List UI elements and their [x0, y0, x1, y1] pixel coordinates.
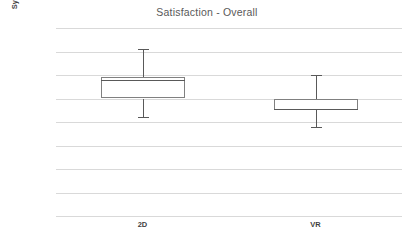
- x-axis-category-label: VR: [271, 220, 361, 229]
- chart-title: Satisfaction - Overall: [0, 6, 414, 18]
- box-plot-chart: Satisfaction - Overall System USability …: [0, 0, 414, 240]
- upper-whisker-cap: [311, 75, 322, 76]
- box-plot-group[interactable]: [56, 28, 402, 216]
- median-line: [274, 109, 358, 110]
- plot-area: 0,010,020,030,040,050,060,070,080,0 2DVR: [56, 28, 402, 216]
- lower-whisker-cap: [311, 127, 322, 128]
- gridline: [56, 216, 402, 217]
- lower-whisker-line: [316, 110, 317, 126]
- x-axis-category-label: 2D: [98, 220, 188, 229]
- y-axis-title: System USability Scale: [9, 0, 21, 57]
- upper-whisker-line: [316, 75, 317, 99]
